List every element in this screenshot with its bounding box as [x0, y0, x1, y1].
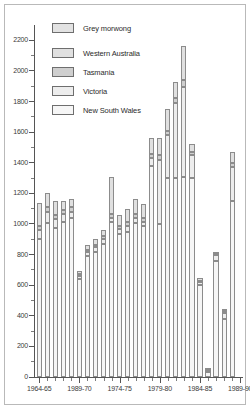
bar-segment-tasmania [149, 154, 154, 158]
y-tick-label: 1400 [2, 159, 28, 166]
bar-1975-76 [125, 209, 130, 377]
bar-segment-victoria [101, 239, 106, 244]
bar-segment-victoria [93, 247, 98, 252]
y-tick [31, 331, 34, 332]
x-tick [39, 378, 40, 383]
legend-row-tasmania: Tasmania [52, 66, 182, 78]
bar-segment-western-australia [157, 138, 162, 155]
x-axis-spine [34, 377, 243, 378]
bar-1974-75 [117, 215, 122, 377]
bar-segment-western-australia [181, 46, 186, 80]
bar-1983-84 [189, 144, 194, 377]
bar-1973-74 [109, 177, 114, 377]
bar-segment-victoria [61, 214, 66, 222]
x-tick [208, 378, 209, 381]
bar-segment-victoria [117, 229, 122, 234]
x-tick [160, 378, 161, 383]
x-tick [232, 378, 233, 381]
y-tick [31, 86, 34, 87]
bar-segment-tasmania [85, 250, 90, 252]
bar-segment-western-australia [37, 203, 42, 227]
legend-row-western-australia: Western Australia [52, 47, 182, 59]
bar-segment-western-australia [133, 199, 138, 214]
y-tick [31, 239, 34, 240]
bar-segment-new-south-wales [69, 218, 74, 377]
x-tick [63, 378, 64, 381]
bar-segment-victoria [69, 212, 74, 218]
x-tick [136, 378, 137, 381]
y-axis-labels: 0200400600800100012001400160018002000220… [0, 0, 28, 409]
bar-segment-new-south-wales [61, 222, 66, 377]
bar-segment-tasmania [69, 207, 74, 212]
bar-segment-victoria [222, 313, 227, 319]
y-tick [29, 193, 34, 194]
y-tick [31, 300, 34, 301]
bar-1977-78 [141, 204, 146, 377]
bar-segment-tasmania [125, 222, 130, 226]
bar-segment-western-australia [109, 177, 114, 214]
y-tick-label: 200 [2, 342, 28, 349]
x-tick [87, 378, 88, 381]
bar-segment-tasmania [45, 207, 50, 212]
bar-segment-tasmania [61, 210, 66, 214]
bar-segment-western-australia [197, 278, 202, 281]
bar-segment-tasmania [101, 236, 106, 239]
x-tick [200, 378, 201, 383]
x-tick [104, 378, 105, 381]
y-tick-label: 2000 [2, 67, 28, 74]
legend-label-title: Grey morwong [83, 24, 131, 33]
x-tick [184, 378, 185, 381]
bar-segment-tasmania [109, 214, 114, 218]
bar-segment-victoria [53, 219, 58, 228]
x-tick [112, 378, 113, 381]
y-tick-label: 0 [2, 373, 28, 380]
x-tick-label: 1964-65 [27, 385, 51, 392]
x-tick-label: 1974-75 [107, 385, 131, 392]
y-tick [29, 132, 34, 133]
bar-segment-new-south-wales [222, 319, 227, 377]
bar-segment-western-australia [93, 239, 98, 245]
bar-segment-new-south-wales [117, 234, 122, 377]
bar-segment-new-south-wales [173, 178, 178, 377]
bar-segment-tasmania [117, 226, 122, 229]
bar-1965-66 [45, 193, 50, 377]
bar-segment-western-australia [53, 201, 58, 215]
bar-segment-western-australia [45, 193, 50, 207]
bar-segment-victoria [45, 212, 50, 223]
bar-segment-victoria [165, 135, 170, 178]
bar-1978-79 [149, 138, 154, 377]
chart-legend: Grey morwong Western Australia Tasmania … [52, 22, 182, 123]
bar-segment-victoria [181, 87, 186, 177]
legend-label-victoria: Victoria [83, 87, 107, 96]
bar-segment-western-australia [61, 201, 66, 210]
bar-1984-85 [197, 278, 202, 377]
legend-label-western-australia: Western Australia [83, 49, 140, 58]
bar-segment-new-south-wales [197, 285, 202, 377]
bar-segment-victoria [213, 255, 218, 261]
y-tick-label: 1200 [2, 189, 28, 196]
y-tick-label: 400 [2, 312, 28, 319]
bar-segment-western-australia [189, 144, 194, 152]
x-tick [192, 378, 193, 381]
legend-row-victoria: Victoria [52, 85, 182, 97]
bar-segment-victoria [141, 222, 146, 227]
bar-1968-69 [69, 199, 74, 377]
bar-1980-81 [165, 109, 170, 377]
bar-segment-tasmania [37, 226, 42, 230]
bar-segment-tasmania [189, 152, 194, 155]
x-tick [144, 378, 145, 381]
bar-segment-new-south-wales [101, 244, 106, 377]
y-tick [29, 223, 34, 224]
bar-segment-victoria [37, 230, 42, 239]
legend-swatch-title [52, 23, 74, 33]
bar-1979-80 [157, 138, 162, 377]
y-tick-label: 600 [2, 281, 28, 288]
bar-segment-western-australia [85, 245, 90, 250]
x-tick [95, 378, 96, 381]
x-tick [128, 378, 129, 381]
bar-segment-new-south-wales [165, 178, 170, 377]
y-tick [29, 377, 34, 378]
y-tick [31, 208, 34, 209]
bar-segment-western-australia [69, 199, 74, 207]
bar-segment-western-australia [117, 215, 122, 226]
